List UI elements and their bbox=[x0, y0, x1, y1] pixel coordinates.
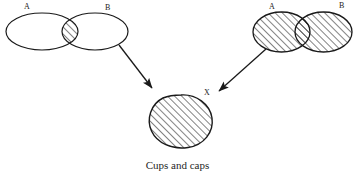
diagram-result-blob bbox=[140, 88, 225, 156]
label-set-a-intersection: A bbox=[24, 3, 30, 11]
label-set-a-union: A bbox=[269, 3, 275, 11]
label-set-b-union: B bbox=[339, 2, 344, 10]
arrow-from-union-to-result bbox=[219, 49, 266, 91]
label-result-x: X bbox=[204, 89, 210, 97]
label-set-b-intersection: B bbox=[105, 4, 110, 12]
arrow-from-intersection-to-result bbox=[119, 45, 152, 88]
diagram-intersection bbox=[6, 13, 128, 50]
diagram-union bbox=[253, 12, 352, 52]
figure-caption: Cups and caps bbox=[0, 159, 355, 171]
venn-diagram-canvas bbox=[0, 0, 355, 172]
figure-cups-and-caps: A B A B X Cups and caps bbox=[0, 0, 355, 172]
